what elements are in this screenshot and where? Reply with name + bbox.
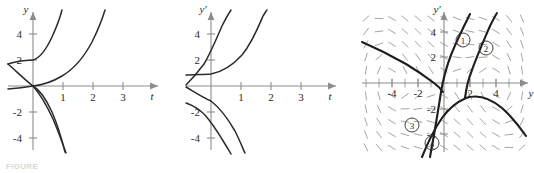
slope-field-tick <box>363 16 369 22</box>
slope-field-tick <box>521 92 522 101</box>
slope-field-tick <box>466 44 475 45</box>
trajectory-label-4-text: 4 <box>430 139 435 149</box>
slope-field-tick <box>376 144 382 151</box>
panel-2-ytick-2: 2 <box>195 54 201 66</box>
slope-field-tick <box>453 69 461 72</box>
slope-field-tick <box>415 16 422 22</box>
slope-field-tick <box>479 68 486 73</box>
slope-field-tick <box>414 134 423 136</box>
slope-field-tick <box>521 53 523 62</box>
slope-field-tick <box>415 28 421 34</box>
slope-field-tick <box>414 146 422 149</box>
slope-field-tick <box>401 93 408 98</box>
slope-field-tick <box>466 57 475 58</box>
slope-field-tick <box>506 15 512 22</box>
slope-field-tick <box>507 53 511 61</box>
panel-3-ytick-4: 4 <box>431 26 437 38</box>
slope-field-tick <box>388 145 396 150</box>
panel-1-y-axis-label: y <box>23 3 29 15</box>
panel-3-xtick-4: 4 <box>493 87 499 99</box>
panel-1-ytick-neg4: -4 <box>13 132 23 144</box>
slope-field-tick <box>467 145 474 151</box>
panel-2-xtick-1: 1 <box>238 91 244 103</box>
slope-field-tick <box>480 105 486 112</box>
slope-field-tick <box>506 106 513 112</box>
panel-1-ytick-4: 4 <box>17 28 23 40</box>
slope-field-tick <box>467 105 472 112</box>
slope-field-tick <box>507 92 511 100</box>
slope-field-tick <box>467 132 473 138</box>
slope-field-tick <box>428 16 435 21</box>
slope-field-tick <box>427 94 435 97</box>
slope-field-tick <box>388 29 396 33</box>
panel-2-svg: y' t 4 2 -2 -4 1 2 3 <box>178 0 356 160</box>
slope-field-tick <box>427 120 435 122</box>
slope-field-tick <box>466 30 475 32</box>
trajectory-label-3-text: 3 <box>410 121 415 131</box>
slope-field-tick <box>508 66 510 74</box>
slope-field-tick <box>388 132 396 137</box>
chart-panel-direction-field: y' y -4 -2 2 4 4 2 -2 -4 1 2 <box>356 0 534 160</box>
slope-field-tick <box>402 54 408 61</box>
slope-field-tick <box>492 68 499 73</box>
slope-field-tick <box>429 66 434 73</box>
panel-1-xtick-2: 2 <box>90 91 96 103</box>
slope-field-tick <box>492 132 500 136</box>
panel-3-svg: y' y -4 -2 2 4 4 2 -2 -4 1 2 <box>356 0 534 160</box>
slope-field-tick <box>492 29 500 34</box>
panel-1-axes <box>8 12 158 150</box>
panel-2-y-axis-label: y' <box>198 3 207 15</box>
panel-2-ytick-4: 4 <box>195 28 201 40</box>
slope-field-tick <box>402 41 408 47</box>
figure-caption: FIGURE <box>6 162 306 173</box>
slope-field-tick <box>403 66 407 74</box>
slope-field-tick <box>377 105 381 113</box>
slope-field-tick <box>521 40 524 48</box>
panel-1-curves <box>8 10 105 153</box>
slope-field-tick <box>480 132 486 138</box>
slope-field-tick <box>454 132 461 138</box>
slope-field-tick <box>520 118 524 126</box>
panel-1-xtick-3: 3 <box>120 91 126 103</box>
slope-field-tick <box>375 43 383 46</box>
slope-field-tick <box>520 15 524 23</box>
panel-2-x-axis-label: t <box>328 90 332 102</box>
slope-field-tick <box>378 92 380 100</box>
slope-field-tick <box>376 54 383 60</box>
panel-3-xtick-neg4: -4 <box>387 87 397 99</box>
slope-field-tick <box>401 146 409 149</box>
slope-field-tick <box>454 106 460 112</box>
slope-field-tick <box>365 105 367 114</box>
panel-1-xtick-1: 1 <box>60 91 66 103</box>
slope-field-tick <box>492 42 500 47</box>
slope-field-tick <box>454 145 461 150</box>
slope-field-tick <box>492 107 500 111</box>
slope-field-tick <box>506 28 511 35</box>
slope-field-tick <box>492 145 500 150</box>
panel-1-ytick-2: 2 <box>17 54 23 66</box>
slope-field-tick <box>402 28 408 34</box>
slope-field-tick <box>507 41 512 48</box>
slope-field-tick <box>453 57 462 58</box>
trajectory-label-3: 3 <box>405 118 419 132</box>
panel-3-y-axis-label: y' <box>432 3 441 15</box>
slope-field-tick <box>388 106 396 111</box>
slope-field-tick <box>364 131 367 139</box>
slope-field-tick <box>414 108 423 109</box>
slope-field-tick <box>388 119 396 124</box>
chart-panel-solution-curves-yprime: y' t 4 2 -2 -4 1 2 3 <box>178 0 356 160</box>
slope-field-tick <box>520 27 523 35</box>
slope-field-tick <box>377 66 381 74</box>
slope-field-tick <box>415 41 421 48</box>
slope-field-tick <box>428 41 435 47</box>
figure-panels-row: y t 4 2 -2 -4 1 2 3 <box>0 0 534 160</box>
trajectory-label-1-text: 1 <box>461 36 466 46</box>
panel-1-ytick-neg2: -2 <box>13 106 22 118</box>
slope-field-tick <box>479 30 487 32</box>
slope-field-tick <box>505 120 513 123</box>
slope-field-tick <box>365 92 366 101</box>
slope-field-tick <box>453 17 461 20</box>
slope-field-tick <box>415 54 420 61</box>
panel-3-xtick-neg2: -2 <box>413 87 422 99</box>
panel-3-ytick-neg2: -2 <box>427 103 436 115</box>
